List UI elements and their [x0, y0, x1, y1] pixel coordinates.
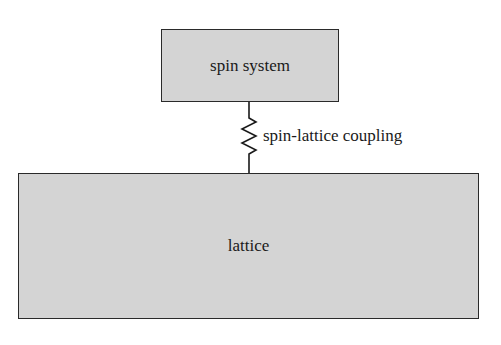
coupling-label: spin-lattice coupling	[263, 126, 402, 146]
lattice-box: lattice	[18, 173, 479, 319]
lattice-label: lattice	[228, 236, 270, 256]
